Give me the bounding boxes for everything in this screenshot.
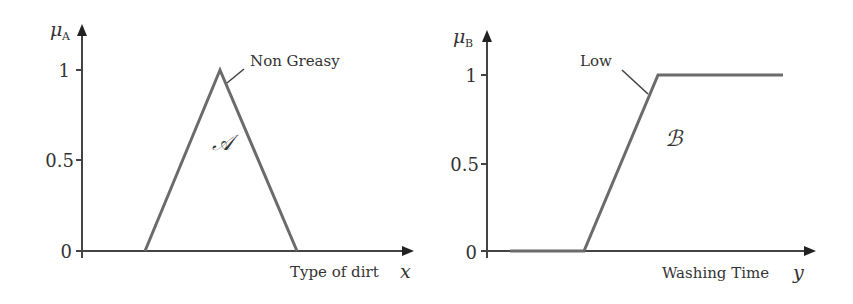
set-symbol-a: 𝒜 <box>212 130 239 155</box>
right-chart: 1 0.5 0 μ B Low ℬ Washing Time y <box>450 25 816 283</box>
left-y-label-subscript: A <box>61 30 71 43</box>
right-tick-label-05: 0.5 <box>450 154 479 175</box>
left-chart: 1 0.5 0 μ A Non Greasy 𝒜 Type of dirt x <box>45 18 414 282</box>
left-y-label-mu: μ <box>50 18 62 40</box>
left-x-arrow-icon <box>402 246 414 256</box>
set-symbol-b: ℬ <box>665 126 684 151</box>
curve-label-non-greasy: Non Greasy <box>250 52 340 70</box>
right-y-label-mu: μ <box>453 25 465 47</box>
membership-curve-non-greasy <box>145 70 297 251</box>
left-tick-label-1: 1 <box>59 60 70 81</box>
diagram-canvas: 1 0.5 0 μ A Non Greasy 𝒜 Type of dirt x … <box>0 0 853 304</box>
left-x-variable: x <box>400 260 411 282</box>
right-tick-label-0: 0 <box>466 242 477 263</box>
right-y-label-subscript: B <box>465 37 473 50</box>
low-leader-line <box>622 70 648 94</box>
curve-label-low: Low <box>580 52 612 70</box>
left-x-label: Type of dirt <box>290 263 379 281</box>
right-y-arrow-icon <box>482 30 492 42</box>
left-y-arrow-icon <box>77 24 87 36</box>
right-x-arrow-icon <box>804 246 816 256</box>
left-tick-label-05: 0.5 <box>45 150 74 171</box>
non-greasy-leader-line <box>227 69 244 83</box>
right-x-label: Washing Time <box>662 264 769 282</box>
right-tick-label-1: 1 <box>466 65 477 86</box>
left-tick-label-0: 0 <box>61 241 72 262</box>
membership-curve-low <box>510 75 783 251</box>
right-x-variable: y <box>792 261 804 283</box>
